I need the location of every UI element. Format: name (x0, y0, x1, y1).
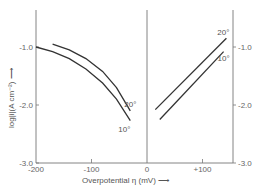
x-tick-label: 0 (145, 165, 150, 174)
axes (36, 10, 233, 163)
x-tick-label: -100 (83, 165, 100, 174)
x-axis-title: Overpotential η (mV) ⟶ (82, 176, 170, 185)
y-axis-title: log|i|(A cm⁻²) ⟶ (7, 67, 16, 128)
x-tick-label: +100 (193, 165, 212, 174)
curve-labels: 10°20°20°10° (118, 28, 229, 133)
curve-label: 10° (218, 54, 230, 63)
curve-0 (36, 47, 130, 121)
curve-label: 20° (217, 28, 229, 37)
y-tick-label-right: -3.0 (238, 159, 252, 168)
curve-1 (53, 44, 131, 111)
y-tick-label-left: -2.0 (19, 101, 33, 110)
curve-label: 10° (118, 125, 130, 134)
curve-3 (160, 52, 224, 120)
y-tick-label-right: -1.0 (238, 43, 252, 52)
y-tick-label-left: -3.0 (19, 159, 33, 168)
y-tick-label-left: -1.0 (19, 43, 33, 52)
curve-2 (155, 38, 226, 109)
curve-label: 20° (124, 100, 136, 109)
y-tick-label-right: -2.0 (238, 101, 252, 110)
chart: -200-1000+100-1.0-2.0-3.0-1.0-2.0-3.0 10… (0, 0, 262, 190)
